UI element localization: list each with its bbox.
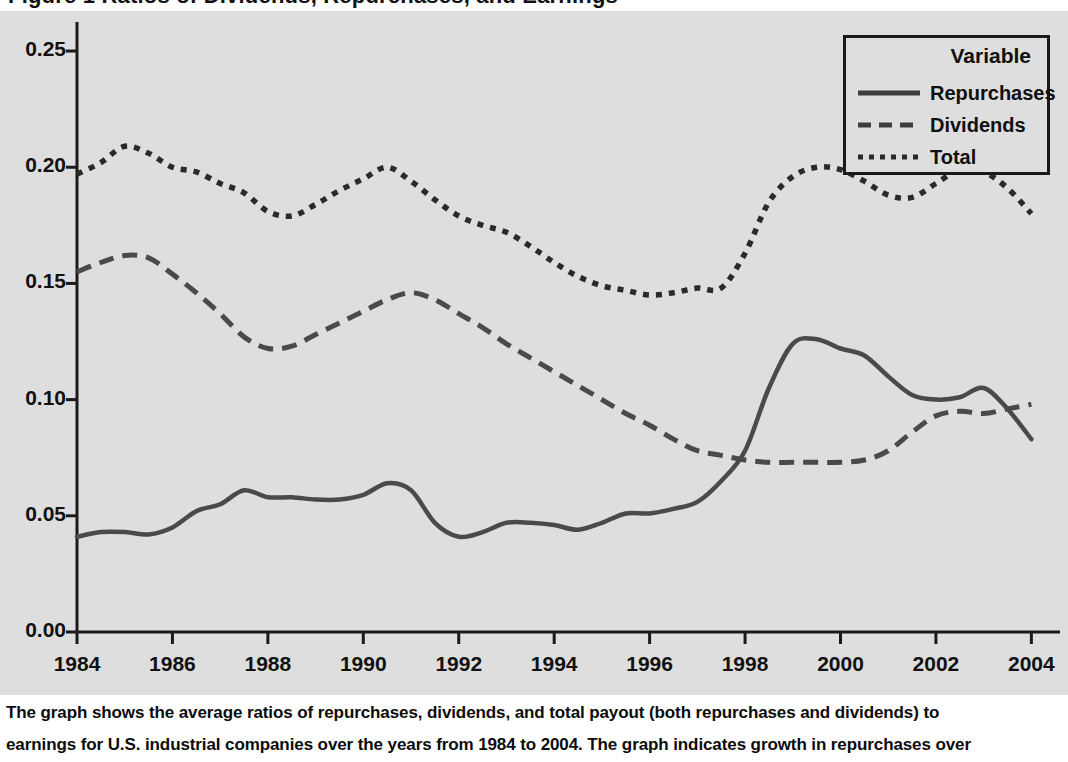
x-tick-label: 1998 bbox=[705, 652, 785, 676]
dashed-line-icon bbox=[856, 115, 922, 135]
legend-label-repurchases: Repurchases bbox=[930, 82, 1056, 105]
series-line-repurchases bbox=[77, 338, 1031, 537]
caption-line-1: The graph shows the average ratios of re… bbox=[0, 695, 1068, 727]
chart-legend: Variable Repurchases Dividends Total bbox=[843, 35, 1050, 175]
y-tick-label: 0.15 bbox=[6, 269, 66, 293]
legend-title: Variable bbox=[846, 44, 1045, 68]
x-tick-label: 2000 bbox=[800, 652, 880, 676]
figure-headline-strip: Figure 1 Ratios of Dividends, Repurchase… bbox=[0, 0, 1068, 11]
chart-page: Figure 1 Ratios of Dividends, Repurchase… bbox=[0, 0, 1068, 762]
y-tick-label: 0.10 bbox=[6, 386, 66, 410]
figure-caption: The graph shows the average ratios of re… bbox=[0, 695, 1068, 762]
x-tick-label: 1996 bbox=[610, 652, 690, 676]
legend-label-total: Total bbox=[930, 146, 976, 169]
y-tick-label: 0.20 bbox=[6, 153, 66, 177]
x-tick-label: 1986 bbox=[132, 652, 212, 676]
y-tick-label: 0.05 bbox=[6, 502, 66, 526]
solid-line-icon bbox=[856, 83, 922, 103]
y-tick-label: 0.25 bbox=[6, 37, 66, 61]
legend-item-repurchases[interactable]: Repurchases bbox=[856, 78, 1046, 108]
x-tick-label: 1994 bbox=[514, 652, 594, 676]
x-tick-label: 1992 bbox=[419, 652, 499, 676]
y-tick-label: 0.00 bbox=[6, 618, 66, 642]
x-tick-label: 1988 bbox=[228, 652, 308, 676]
caption-line-2: earnings for U.S. industrial companies o… bbox=[0, 727, 1068, 759]
chart-plot-area: Variable Repurchases Dividends Total bbox=[0, 11, 1068, 695]
legend-item-total[interactable]: Total bbox=[856, 142, 1046, 172]
x-tick-label: 2002 bbox=[896, 652, 976, 676]
dotted-line-icon bbox=[856, 147, 922, 167]
figure-headline: Figure 1 Ratios of Dividends, Repurchase… bbox=[8, 0, 618, 9]
x-tick-label: 1990 bbox=[323, 652, 403, 676]
x-tick-label: 1984 bbox=[37, 652, 117, 676]
legend-label-dividends: Dividends bbox=[930, 114, 1026, 137]
series-line-dividends bbox=[77, 255, 1031, 462]
x-tick-label: 2004 bbox=[991, 652, 1068, 676]
legend-item-dividends[interactable]: Dividends bbox=[856, 110, 1046, 140]
